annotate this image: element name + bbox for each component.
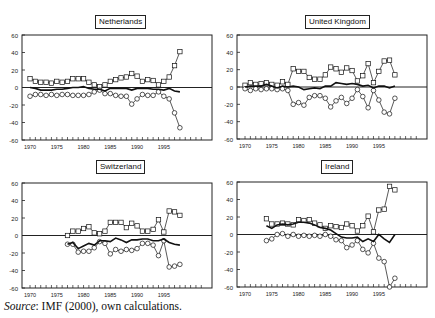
svg-text:1970: 1970 [239, 291, 251, 297]
svg-text:40: 40 [11, 50, 18, 56]
svg-text:-20: -20 [9, 103, 18, 109]
svg-text:-60: -60 [224, 285, 233, 291]
svg-text:0: 0 [15, 85, 19, 91]
svg-text:-60: -60 [9, 286, 18, 292]
svg-text:-40: -40 [224, 119, 233, 125]
svg-text:-20: -20 [9, 251, 18, 257]
chart-title: Switzerland [96, 160, 145, 174]
svg-text:-20: -20 [224, 102, 233, 108]
source-text: : IMF (2000), own calculations. [36, 300, 182, 312]
svg-text:1980: 1980 [292, 291, 304, 297]
source-label: Source [4, 300, 36, 312]
svg-text:1975: 1975 [266, 291, 278, 297]
chart-title: Ireland [321, 160, 353, 174]
source-note: Source: IMF (2000), own calculations. [4, 300, 182, 312]
svg-text:0: 0 [15, 233, 19, 239]
svg-text:20: 20 [11, 216, 18, 222]
chart-switzerland: 6040200-20-40-60197019751980198519901995… [0, 148, 217, 300]
svg-text:-40: -40 [224, 267, 233, 273]
svg-text:0: 0 [230, 85, 234, 91]
svg-text:-20: -20 [224, 250, 233, 256]
svg-text:40: 40 [226, 50, 233, 56]
svg-text:-60: -60 [9, 138, 18, 144]
svg-text:1985: 1985 [104, 292, 116, 298]
chart-netherlands: 6040200-20-40-60197019751980198519901995… [0, 0, 217, 150]
svg-text:1995: 1995 [373, 291, 385, 297]
svg-text:1995: 1995 [158, 292, 170, 298]
svg-text:-60: -60 [224, 137, 233, 143]
svg-text:1970: 1970 [24, 292, 36, 298]
chart-title: United Kingdom [305, 15, 370, 29]
svg-text:1985: 1985 [319, 291, 331, 297]
svg-text:1975: 1975 [51, 292, 63, 298]
svg-text:-40: -40 [9, 120, 18, 126]
svg-text:20: 20 [226, 215, 233, 221]
chart-united-kingdom: 6040200-20-40-60197019751980198519901995… [217, 0, 435, 150]
svg-text:40: 40 [11, 198, 18, 204]
svg-text:60: 60 [226, 33, 233, 39]
svg-text:0: 0 [230, 232, 234, 238]
svg-text:1980: 1980 [77, 292, 89, 298]
svg-text:1990: 1990 [131, 292, 143, 298]
chart-title: Netherlands [95, 15, 146, 29]
svg-text:40: 40 [226, 197, 233, 203]
chart-ireland: 6040200-20-40-60197019751980198519901995… [217, 148, 435, 300]
svg-text:20: 20 [226, 67, 233, 73]
svg-text:60: 60 [226, 180, 233, 186]
svg-text:1990: 1990 [346, 291, 358, 297]
svg-text:60: 60 [11, 33, 18, 39]
svg-text:20: 20 [11, 68, 18, 74]
svg-text:60: 60 [11, 181, 18, 187]
svg-text:-40: -40 [9, 268, 18, 274]
